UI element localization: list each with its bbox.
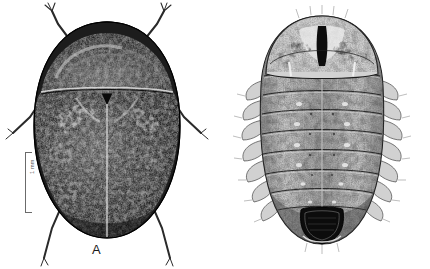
- larva-terminal-segment: [301, 207, 344, 244]
- scalebar-a-tick-bottom: [25, 212, 32, 213]
- panel-a: 1 mm A: [0, 0, 215, 269]
- scalebar-a-line: [25, 152, 26, 213]
- scalebar-a-tick-top: [25, 152, 32, 153]
- figure-plate: 1 mm A: [0, 0, 430, 269]
- adult-beetle-illustration: [0, 0, 215, 269]
- larva-illustration: [215, 0, 430, 269]
- scalebar-a-label: 1 mm: [29, 159, 35, 174]
- larva-head: [260, 10, 386, 80]
- panel-b: 2 mm B: [215, 0, 430, 269]
- panel-label-a: A: [92, 243, 101, 256]
- scalebar-a: 1 mm: [25, 152, 39, 213]
